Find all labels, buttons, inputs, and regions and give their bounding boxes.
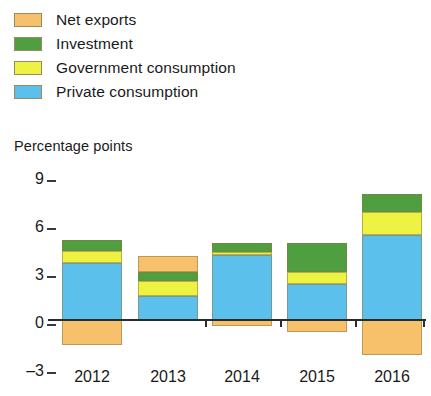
bar-chart-plot: 9 6 3 0 –3 <box>0 0 431 396</box>
bar-segment-private-consumption-2014 <box>212 255 272 320</box>
bar-group-2013 <box>138 180 198 370</box>
x-tick-label-2012: 2012 <box>57 368 127 386</box>
y-tick-mark-3 <box>47 276 56 278</box>
bar-group-2016 <box>362 180 422 370</box>
bar-segment-government-consumption-2013 <box>138 281 198 296</box>
y-tick-label-9: 9 <box>14 170 44 188</box>
y-tick-mark-minus-3 <box>47 372 56 374</box>
bar-segment-net-exports-2016 <box>362 320 422 355</box>
bar-segment-investment-2016 <box>362 194 422 212</box>
zero-baseline <box>48 319 426 321</box>
x-tick-label-2013: 2013 <box>133 368 203 386</box>
bar-segment-investment-2015 <box>287 243 347 272</box>
bar-segment-investment-2012 <box>62 240 122 251</box>
bar-group-2015 <box>287 180 347 370</box>
bar-segment-government-consumption-2012 <box>62 251 122 263</box>
bar-segment-investment-2013 <box>138 272 198 281</box>
bar-segment-private-consumption-2015 <box>287 284 347 320</box>
bar-group-2012 <box>62 180 122 370</box>
bar-segment-investment-2014 <box>212 243 272 252</box>
x-tick-label-2016: 2016 <box>357 368 427 386</box>
zero-tick-end <box>423 321 425 327</box>
y-tick-label-3: 3 <box>14 266 44 284</box>
x-tick-label-2014: 2014 <box>207 368 277 386</box>
bar-segment-government-consumption-2016 <box>362 212 422 235</box>
y-tick-label-6: 6 <box>14 218 44 236</box>
y-tick-mark-9 <box>47 180 56 182</box>
bar-segment-net-exports-2013 <box>138 256 198 272</box>
y-tick-label-minus-3: –3 <box>8 362 44 380</box>
bar-group-2014 <box>212 180 272 370</box>
zero-tick-2013 <box>205 321 207 327</box>
zero-tick-2014 <box>280 321 282 327</box>
bar-segment-private-consumption-2016 <box>362 235 422 320</box>
y-tick-mark-6 <box>47 228 56 230</box>
bar-segment-net-exports-2015 <box>287 320 347 332</box>
bar-segment-private-consumption-2012 <box>62 263 122 320</box>
x-tick-label-2015: 2015 <box>282 368 352 386</box>
y-tick-mark-0 <box>47 324 56 326</box>
bar-segment-net-exports-2012 <box>62 320 122 345</box>
y-tick-label-0: 0 <box>14 314 44 332</box>
bar-segment-private-consumption-2013 <box>138 296 198 320</box>
zero-tick-2015 <box>355 321 357 327</box>
bar-segment-government-consumption-2015 <box>287 272 347 284</box>
